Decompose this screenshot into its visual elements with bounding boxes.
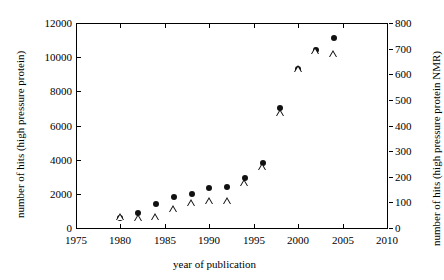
data-point-triangle: [205, 197, 213, 204]
y-tick-label-right: 600: [395, 69, 421, 80]
data-point-triangle: [294, 65, 302, 72]
x-tick-label: 1980: [105, 235, 135, 246]
x-tick-top: [298, 24, 299, 28]
x-tick-label: 1975: [61, 235, 91, 246]
y-tick-left: [77, 228, 81, 229]
y-tick-left: [77, 160, 81, 161]
y-tick-right: [389, 151, 393, 152]
y-tick-right: [389, 202, 393, 203]
data-point-triangle: [311, 47, 319, 54]
x-tick: [165, 224, 166, 228]
x-tick-top: [120, 24, 121, 28]
x-tick-top: [343, 24, 344, 28]
y-tick-right: [389, 49, 393, 50]
data-point-circle: [224, 184, 230, 190]
x-tick-top: [387, 24, 388, 28]
y-tick-label-left: 8000: [32, 86, 72, 97]
x-tick-label: 2000: [283, 235, 313, 246]
y-tick-left: [77, 194, 81, 195]
x-tick-label: 1985: [150, 235, 180, 246]
x-axis-line: [76, 228, 388, 229]
y-tick-right: [389, 74, 393, 75]
data-point-circle: [331, 35, 337, 41]
data-point-triangle: [329, 50, 337, 57]
data-point-triangle: [134, 214, 142, 221]
x-tick: [254, 224, 255, 228]
data-point-triangle: [169, 205, 177, 212]
data-point-triangle: [240, 179, 248, 186]
y-tick-left: [77, 23, 81, 24]
y-tick-label-left: 6000: [32, 121, 72, 132]
x-tick-label: 2005: [328, 235, 358, 246]
x-tick: [298, 224, 299, 228]
y-tick-label-right: 200: [395, 172, 421, 183]
y-tick-label-right: 400: [395, 121, 421, 132]
y-tick-right: [389, 228, 393, 229]
x-tick: [120, 224, 121, 228]
data-point-triangle: [276, 109, 284, 116]
chart-root: number of hits (high pressure protein) n…: [0, 0, 444, 280]
y-tick-left: [77, 57, 81, 58]
y-tick-label-left: 0: [32, 223, 72, 234]
x-tick-top: [254, 24, 255, 28]
y-tick-label-right: 700: [395, 44, 421, 55]
y-tick-right: [389, 100, 393, 101]
x-axis-top-line: [76, 23, 388, 24]
x-tick-label: 2010: [372, 235, 402, 246]
y-tick-label-right: 300: [395, 146, 421, 157]
y-tick-label-right: 0: [395, 223, 421, 234]
y-tick-right: [389, 23, 393, 24]
x-tick-top: [165, 24, 166, 28]
y-axis-right-line: [387, 23, 388, 228]
data-point-triangle: [223, 197, 231, 204]
y-tick-left: [77, 126, 81, 127]
data-point-circle: [189, 191, 195, 197]
data-point-triangle: [116, 213, 124, 220]
y-tick-label-right: 500: [395, 95, 421, 106]
x-tick: [387, 224, 388, 228]
y-tick-right: [389, 177, 393, 178]
y-tick-right: [389, 126, 393, 127]
y-tick-label-left: 10000: [32, 52, 72, 63]
data-point-circle: [153, 201, 159, 207]
y-tick-label-left: 12000: [32, 18, 72, 29]
y-tick-left: [77, 91, 81, 92]
x-tick-top: [209, 24, 210, 28]
x-tick-label: 1990: [194, 235, 224, 246]
y-tick-label-right: 100: [395, 197, 421, 208]
data-point-circle: [206, 185, 212, 191]
data-point-triangle: [258, 163, 266, 170]
y-tick-label-right: 800: [395, 18, 421, 29]
data-point-triangle: [187, 199, 195, 206]
data-point-triangle: [151, 213, 159, 220]
x-tick: [209, 224, 210, 228]
plot-area: 1975198019851990199520002005201002000400…: [0, 0, 444, 280]
x-tick-label: 1995: [239, 235, 269, 246]
x-tick-top: [76, 24, 77, 28]
y-tick-label-left: 2000: [32, 189, 72, 200]
x-tick: [343, 224, 344, 228]
data-point-circle: [171, 194, 177, 200]
y-tick-label-left: 4000: [32, 155, 72, 166]
